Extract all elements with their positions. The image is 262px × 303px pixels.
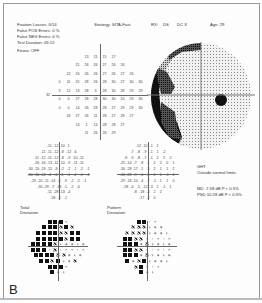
threshold-value: 28 xyxy=(103,106,107,110)
pd-probability-symbol xyxy=(142,220,146,224)
total-deviation-value: -2 xyxy=(77,179,80,183)
total-deviation-value: -11 xyxy=(73,161,78,165)
pd-probability-symbol xyxy=(169,238,171,240)
threshold-value: 29 xyxy=(112,131,116,135)
pattern-deviation-value: -1 xyxy=(150,144,153,148)
pattern-deviation-value: -4 xyxy=(140,179,143,183)
total-deviation-value: -18 xyxy=(50,196,55,200)
total-deviation-value: -2 xyxy=(67,167,70,171)
total-deviation-value: -13 xyxy=(47,161,52,165)
pattern-deviation-value: -1 xyxy=(150,150,153,154)
pd-probability-symbol xyxy=(157,266,159,268)
threshold-value: 13 xyxy=(85,55,89,59)
pattern-deviation-value: -8 xyxy=(137,150,140,154)
total-deviation-value: -1 xyxy=(64,185,67,189)
pattern-deviation-value: 0 xyxy=(173,179,175,183)
threshold-value: 26 xyxy=(130,72,134,76)
pattern-deviation-value: 2 xyxy=(153,161,155,165)
td-probability-symbol xyxy=(42,237,46,241)
threshold-value: 29 xyxy=(121,106,125,110)
pattern-deviation-value: 0 xyxy=(166,161,168,165)
total-deviation-value: -8 xyxy=(54,167,57,171)
pattern-deviation-value: 2 xyxy=(160,161,162,165)
pattern-deviation-value: -3 xyxy=(150,185,153,189)
td-probability-symbol xyxy=(66,266,68,268)
pd-probability-symbol xyxy=(143,226,146,229)
pd-probability-symbol xyxy=(157,238,159,240)
td-probability-symbol xyxy=(53,237,57,241)
total-deviation-value: -30 xyxy=(37,185,42,189)
pattern-deviation-value: -28 xyxy=(126,167,131,171)
threshold-value: 3 xyxy=(95,89,97,93)
total-deviation-value: -11 xyxy=(53,161,58,165)
total-deviation-value: -6 xyxy=(73,150,76,154)
threshold-value: 30 xyxy=(112,89,116,93)
td-probability-symbol xyxy=(66,249,68,251)
threshold-value: 0 xyxy=(68,106,70,110)
td-probability-symbol xyxy=(65,237,68,240)
pattern-deviation-value: 2 xyxy=(173,167,175,171)
pd-probability-symbol xyxy=(157,249,159,251)
pd-probability-symbol xyxy=(155,232,157,234)
total-deviation-value: -9 xyxy=(67,161,70,165)
total-deviation-value: -11 xyxy=(34,156,39,160)
greyscale-map xyxy=(147,42,255,150)
td-probability-symbol xyxy=(48,231,52,235)
threshold-value: 0 xyxy=(68,97,70,101)
threshold-value: 27 xyxy=(103,63,107,67)
td-probability-symbol xyxy=(76,231,80,235)
threshold-value: 21 xyxy=(76,63,80,67)
pd-vertical-axis xyxy=(148,142,149,200)
pattern-deviation-value: -8 xyxy=(137,156,140,160)
td-probability-symbol xyxy=(65,232,68,235)
td-probability-symbol xyxy=(49,249,51,251)
ght-title: GHT xyxy=(197,164,206,170)
total-deviation-value: -10 xyxy=(72,156,77,160)
figure-label: B xyxy=(9,282,18,297)
pattern-deviation-value: -4 xyxy=(130,185,133,189)
fovea-status: Fovea: OFF xyxy=(17,48,39,54)
threshold-value: 13 xyxy=(76,89,80,93)
pd-probability-symbol xyxy=(125,259,129,263)
pattern-deviation-value: 2 xyxy=(160,190,162,194)
td-probability-symbol xyxy=(71,243,73,245)
threshold-value: 1 xyxy=(86,123,88,127)
pd-probability-symbol xyxy=(149,260,151,262)
td-probability-symbol xyxy=(53,225,57,229)
pd-probability-symbol xyxy=(126,232,129,235)
pattern-deviation-value: -10 xyxy=(142,144,147,148)
threshold-value: 28 xyxy=(112,123,116,127)
pd-probability-symbol xyxy=(160,260,162,262)
pattern-deviation-value: -7 xyxy=(130,150,133,154)
threshold-value: 28 xyxy=(121,89,125,93)
pd-probability-symbol xyxy=(169,255,171,257)
threshold-value: 17 xyxy=(112,55,116,59)
threshold-value: 29 xyxy=(130,97,134,101)
pd-probability-symbol xyxy=(137,232,140,235)
pd-probability-symbol xyxy=(166,232,168,234)
td-probability-symbol xyxy=(50,253,54,257)
ds-label: DS xyxy=(163,22,169,28)
total-deviation-value: -29 xyxy=(31,179,36,183)
td-probability-symbol xyxy=(51,260,54,263)
pd-probability-symbol xyxy=(128,253,132,257)
false-pos-errors: False POS Errors: 0 % xyxy=(17,28,59,34)
td-probability-symbol xyxy=(48,220,52,224)
td-probability-symbol xyxy=(68,255,70,257)
td-probability-symbol xyxy=(42,231,46,235)
pd-probability-symbol xyxy=(134,253,138,257)
pdp-vertical-axis xyxy=(147,221,148,281)
threshold-value: 27 xyxy=(103,72,107,76)
td-probability-symbol xyxy=(59,237,63,241)
threshold-value: 14 xyxy=(76,123,80,127)
td-probability-symbol xyxy=(59,226,62,229)
threshold-value: 28 xyxy=(103,89,107,93)
td-probability-symbol xyxy=(77,243,79,245)
pd-probability-symbol xyxy=(128,237,132,241)
pattern-deviation-value: -8 xyxy=(124,156,127,160)
td-probability-symbol xyxy=(48,225,52,229)
pd-probability-symbol xyxy=(169,249,171,251)
pattern-deviation-value: -17 xyxy=(139,196,144,200)
td-probability-symbol xyxy=(68,260,70,262)
total-deviation-value: 1 xyxy=(68,144,70,148)
